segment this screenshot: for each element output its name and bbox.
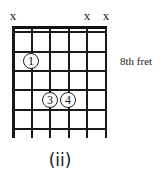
finger-4-marker: 4 bbox=[60, 92, 76, 108]
string-4 bbox=[49, 27, 51, 138]
diagram-caption: (ii) bbox=[40, 150, 80, 170]
muted-marker-string-2: x bbox=[81, 9, 93, 22]
finger-1-marker: 1 bbox=[23, 53, 39, 69]
muted-marker-string-1: x bbox=[100, 9, 112, 22]
fret-position-label: 8th fret bbox=[120, 55, 152, 67]
fret-line-2 bbox=[12, 70, 107, 72]
chord-diagram: x x x 1 3 4 8th fret (ii) bbox=[0, 0, 164, 185]
string-1 bbox=[105, 27, 107, 138]
muted-marker-string-6: x bbox=[7, 9, 19, 22]
fret-line-3 bbox=[12, 89, 107, 91]
string-2 bbox=[86, 27, 88, 138]
string-5 bbox=[31, 27, 33, 138]
finger-3-marker: 3 bbox=[42, 92, 58, 108]
string-6 bbox=[12, 27, 15, 138]
fret-line-5 bbox=[12, 128, 107, 130]
string-3 bbox=[68, 27, 70, 138]
nut-line bbox=[12, 26, 107, 29]
fret-line-0 bbox=[12, 31, 107, 33]
fret-line-1 bbox=[12, 51, 107, 53]
fret-line-4 bbox=[12, 109, 107, 111]
